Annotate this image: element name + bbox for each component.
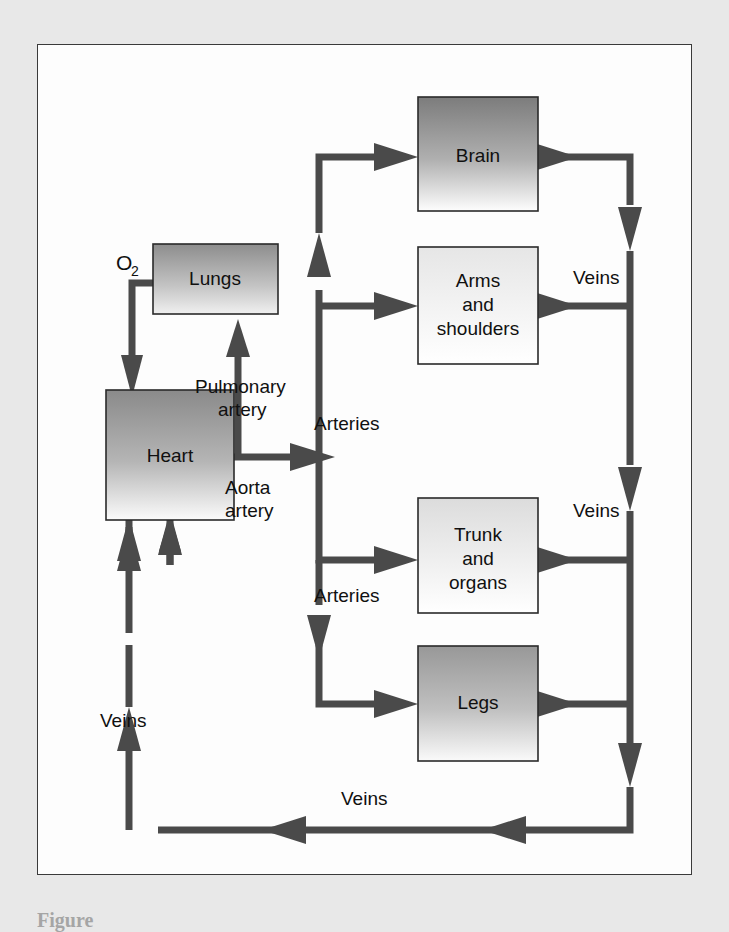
trunk-label-line-1: Trunk bbox=[454, 524, 502, 545]
veins-right-upper-label: Veins bbox=[573, 267, 619, 288]
artery-to-arms bbox=[319, 292, 418, 320]
circulatory-system-diagram: Heart Lungs Brain Arms and shoulders Tru… bbox=[38, 45, 690, 873]
lungs-label: Lungs bbox=[189, 268, 241, 289]
o2-label: O bbox=[116, 251, 132, 274]
arms-and-shoulders-node[interactable]: Arms and shoulders bbox=[418, 247, 538, 364]
lungs-node[interactable]: Lungs bbox=[153, 244, 278, 314]
trunk-label-line-3: organs bbox=[449, 572, 507, 593]
arteries-lower-label: Arteries bbox=[314, 585, 379, 606]
heart-label: Heart bbox=[147, 445, 194, 466]
figure-frame: Heart Lungs Brain Arms and shoulders Tru… bbox=[37, 44, 692, 875]
aorta-label-line-2: artery bbox=[225, 500, 274, 521]
figure-caption-strip: Figure bbox=[37, 908, 297, 932]
trunk-label-line-2: and bbox=[462, 548, 494, 569]
aorta-label-line-1: Aorta bbox=[225, 477, 271, 498]
veins-left-label: Veins bbox=[100, 710, 146, 731]
veins-right-lower-label: Veins bbox=[573, 500, 619, 521]
legs-node[interactable]: Legs bbox=[418, 646, 538, 761]
arms-vein-outflow bbox=[534, 292, 630, 320]
trunk-vein-outflow bbox=[534, 546, 630, 574]
o2-subscript-label: 2 bbox=[131, 263, 139, 279]
brain-label: Brain bbox=[456, 145, 500, 166]
brain-vein-outflow bbox=[534, 143, 642, 251]
right-vein-trunk bbox=[158, 251, 642, 830]
pulmonary-artery-label-line-1: Pulmonary bbox=[195, 376, 286, 397]
o2-flow-arrow bbox=[121, 283, 153, 397]
brain-node[interactable]: Brain bbox=[418, 97, 538, 211]
trunk-and-organs-node[interactable]: Trunk and organs bbox=[418, 498, 538, 613]
figure-caption-text: Figure bbox=[37, 908, 297, 932]
arteries-upper-label: Arteries bbox=[314, 413, 379, 434]
legs-label: Legs bbox=[457, 692, 498, 713]
arms-label-line-3: shoulders bbox=[437, 318, 519, 339]
legs-vein-outflow bbox=[534, 690, 630, 718]
pulmonary-artery-label-line-2: artery bbox=[218, 399, 267, 420]
o2-label-group: O 2 bbox=[116, 251, 139, 279]
arms-label-line-1: Arms bbox=[456, 270, 500, 291]
arms-label-line-2: and bbox=[462, 294, 494, 315]
veins-bottom-label: Veins bbox=[341, 788, 387, 809]
heart-node[interactable]: Heart bbox=[106, 390, 234, 520]
